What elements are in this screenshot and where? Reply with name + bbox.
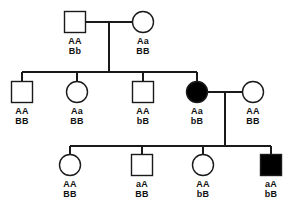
genotype-gene2-I-1: Bb	[52, 46, 98, 56]
genotype-label-I-2: AaBB	[120, 36, 166, 56]
genotype-label-II-4: AabB	[174, 106, 220, 126]
genotype-gene2-I-2: BB	[120, 46, 166, 56]
individual-I-1-male-unaffected	[65, 12, 86, 33]
genotype-gene1-II-3: AA	[120, 106, 166, 116]
individual-III-2-male-unaffected	[132, 155, 153, 176]
genotype-gene1-III-2: aA	[119, 179, 165, 189]
genotype-gene2-II-4: bB	[174, 116, 220, 126]
genotype-gene2-II-2: BB	[54, 116, 100, 126]
individual-I-2-female-unaffected	[133, 12, 154, 33]
genotype-gene2-II-3: bB	[120, 116, 166, 126]
genotype-gene1-II-4: Aa	[174, 106, 220, 116]
pedigree-canvas	[0, 0, 298, 206]
genotype-gene1-III-4: aA	[248, 179, 294, 189]
genotype-gene2-III-4: bB	[248, 189, 294, 199]
genotype-gene2-II-1: BB	[0, 116, 45, 126]
genotype-gene1-I-2: Aa	[120, 36, 166, 46]
genotype-gene1-II-2: Aa	[54, 106, 100, 116]
genotype-gene1-II-1: AA	[0, 106, 45, 116]
genotype-label-III-2: aABB	[119, 179, 165, 199]
genotype-label-III-1: AABB	[47, 179, 93, 199]
genotype-label-II-5: AABB	[230, 106, 276, 126]
genotype-gene1-III-1: AA	[47, 179, 93, 189]
individual-III-1-female-unaffected	[60, 155, 81, 176]
individual-II-4-female-affected	[187, 82, 208, 103]
genotype-gene1-I-1: AA	[52, 36, 98, 46]
individual-II-5-female-unaffected	[243, 82, 264, 103]
individual-III-3-female-unaffected	[193, 155, 214, 176]
genotype-label-II-2: AaBB	[54, 106, 100, 126]
individual-III-4-male-affected	[261, 155, 282, 176]
genotype-label-II-3: AAbB	[120, 106, 166, 126]
individual-II-2-female-unaffected	[67, 82, 88, 103]
genotype-gene2-II-5: BB	[230, 116, 276, 126]
pedigree-diagram: AABbAaBBAABBAaBBAAbBAabBAABBAABBaABBAAbB…	[0, 0, 298, 206]
genotype-gene1-II-5: AA	[230, 106, 276, 116]
genotype-label-II-1: AABB	[0, 106, 45, 126]
genotype-label-III-3: AAbB	[180, 179, 226, 199]
genotype-gene2-III-3: bB	[180, 189, 226, 199]
genotype-gene1-III-3: AA	[180, 179, 226, 189]
genotype-gene2-III-1: BB	[47, 189, 93, 199]
genotype-label-I-1: AABb	[52, 36, 98, 56]
genotype-gene2-III-2: BB	[119, 189, 165, 199]
individual-II-3-male-unaffected	[133, 82, 154, 103]
individual-II-1-male-unaffected	[12, 82, 33, 103]
genotype-label-III-4: aAbB	[248, 179, 294, 199]
